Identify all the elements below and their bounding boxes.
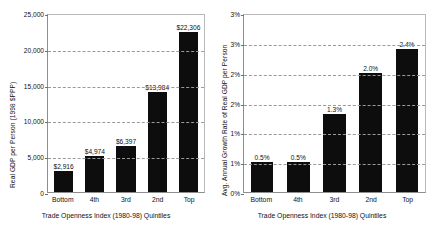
grid-line (244, 164, 425, 165)
bar-value-label: 0.5% (291, 154, 306, 161)
x-axis-title-left: Trade Openness Index (1980-98) Quintiles (6, 212, 206, 219)
bar-slot: $4,974 (79, 15, 110, 192)
x-axis-category-label: Bottom (47, 196, 79, 203)
bar-slot: $2,916 (48, 15, 79, 192)
bar-slot: 2.0% (353, 15, 389, 192)
bar-series-right: 0.5%0.5%1.3%2.0%2.4% (244, 15, 425, 192)
bar-slot: 0.5% (280, 15, 316, 192)
x-axis-category-label: 2nd (142, 196, 174, 203)
plot-area-right: 0.5%0.5%1.3%2.0%2.4% (243, 14, 426, 193)
bar-series-left: $2,916$4,974$6,397$13,984$22,306 (48, 15, 204, 192)
y-axis-title-right: Avg. Annual Growth Rate of Real GDP per … (221, 45, 228, 196)
x-axis-category-label: 4th (79, 196, 111, 203)
bar: 0.5% (287, 162, 309, 192)
bar: $2,916 (54, 171, 73, 192)
x-axis-category-label: 3rd (316, 196, 353, 203)
x-axis-category-label: 4th (280, 196, 317, 203)
y-axis-tick-mark (241, 134, 244, 135)
bar: 1.3% (323, 114, 345, 192)
y-axis-tick-label: 10,000 (0, 118, 44, 125)
bar: 2.4% (396, 49, 418, 192)
x-axis-title-right: Trade Openness Index (1980-98) Quintiles (222, 212, 422, 219)
y-axis-tick-mark (241, 105, 244, 106)
bar-slot: $6,397 (110, 15, 141, 192)
grid-line (244, 45, 425, 46)
x-axis-category-labels-right: Bottom4th3rd2ndTop (243, 196, 426, 203)
y-axis-tick-label: 25,000 (0, 11, 44, 18)
bar: $6,397 (116, 146, 135, 192)
y-axis-tick-mark (45, 51, 48, 52)
x-axis-category-label: Top (173, 196, 205, 203)
bar-value-label: $6,397 (116, 138, 136, 145)
bar-value-label: $4,974 (85, 148, 105, 155)
bar-slot: $13,984 (142, 15, 173, 192)
bar: 0.5% (251, 162, 273, 192)
bar-value-label: 1.3% (327, 106, 342, 113)
bar-value-label: $2,916 (54, 163, 74, 170)
y-axis-tick-label: 20,000 (0, 46, 44, 53)
y-axis-tick-mark (241, 45, 244, 46)
y-axis-tick-mark (241, 164, 244, 165)
bar-slot: 0.5% (244, 15, 280, 192)
plot-area-left: $2,916$4,974$6,397$13,984$22,306 (47, 14, 205, 193)
bar-slot: 2.4% (389, 15, 425, 192)
grid-line (48, 158, 204, 159)
y-axis-tick-mark (45, 194, 48, 195)
y-axis-tick-mark (45, 87, 48, 88)
y-axis-tick-label: 5,000 (0, 154, 44, 161)
grid-line (48, 122, 204, 123)
x-axis-category-label: Top (389, 196, 426, 203)
bar: $13,984 (148, 92, 167, 192)
y-axis-tick-label: 0 (0, 190, 44, 197)
y-axis-title-left: Real GDP per Person (1998 $PPP) (9, 82, 16, 188)
x-axis-category-labels-left: Bottom4th3rd2ndTop (47, 196, 205, 203)
grid-line (244, 75, 425, 76)
y-axis-tick-label: 15,000 (0, 82, 44, 89)
x-axis-category-label: 3rd (110, 196, 142, 203)
bar-value-label: 2.0% (363, 65, 378, 72)
grid-line (48, 51, 204, 52)
bar-value-label: 0.5% (255, 154, 270, 161)
y-axis-tick-label: 3% (212, 11, 240, 18)
bar-slot: 1.3% (316, 15, 352, 192)
y-axis-tick-mark (241, 194, 244, 195)
y-axis-tick-mark (45, 158, 48, 159)
x-axis-category-label: Bottom (243, 196, 280, 203)
bar: 2.0% (359, 73, 381, 192)
y-axis-tick-mark (45, 122, 48, 123)
y-axis-tick-mark (241, 75, 244, 76)
x-axis-category-label: 2nd (353, 196, 390, 203)
chart-panel-right: Avg. Annual Growth Rate of Real GDP per … (212, 0, 424, 233)
grid-line (244, 134, 425, 135)
bar-slot: $22,306 (173, 15, 204, 192)
y-axis-tick-mark (241, 15, 244, 16)
grid-line (244, 105, 425, 106)
bar: $4,974 (85, 156, 104, 192)
grid-line (48, 87, 204, 88)
bar: $22,306 (179, 32, 198, 192)
y-axis-tick-mark (45, 15, 48, 16)
bar-value-label: $22,306 (176, 24, 200, 31)
chart-panel-left: Real GDP per Person (1998 $PPP) 05,00010… (0, 0, 212, 233)
